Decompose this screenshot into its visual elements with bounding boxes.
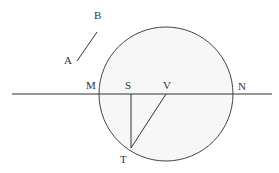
label-b: B (94, 9, 101, 21)
segment-ab (77, 32, 97, 61)
label-v: V (163, 79, 171, 91)
label-m: M (86, 79, 96, 91)
label-a: A (64, 54, 72, 66)
geometric-diagram: B A M S V N T (0, 0, 279, 173)
label-t: T (120, 153, 127, 165)
label-s: S (125, 79, 131, 91)
label-n: N (238, 80, 246, 92)
